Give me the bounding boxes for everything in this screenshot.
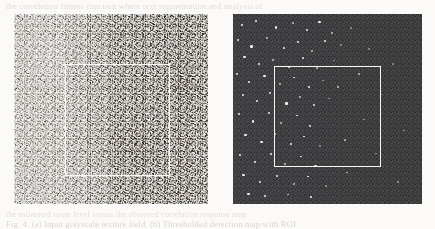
detection-speckle: [276, 175, 278, 177]
figure-container: the correlation fitness function where t…: [0, 0, 435, 229]
detection-speckle: [260, 141, 262, 143]
detection-speckle: [241, 24, 243, 26]
detection-speckle: [297, 41, 299, 43]
detection-speckle: [270, 153, 272, 155]
detection-speckle: [252, 120, 255, 122]
detection-speckle: [397, 181, 399, 183]
detection-speckle: [340, 44, 342, 46]
detection-speckle: [293, 183, 296, 185]
detection-speckle: [238, 113, 240, 115]
scan-bleedthrough-text-bottom-2: Fig. 4. (a) Input grayscale texture fiel…: [6, 219, 430, 229]
detection-map-panel: [233, 14, 422, 204]
detection-speckle: [255, 20, 257, 22]
detection-speckle: [264, 195, 266, 197]
detection-speckle: [268, 112, 270, 114]
detection-speckle: [266, 37, 268, 39]
detection-speckle: [368, 48, 370, 50]
detection-speckle: [331, 32, 333, 34]
detection-speckle: [287, 194, 289, 196]
detection-speckle: [269, 92, 271, 94]
detection-speckle: [254, 161, 257, 163]
detection-speckle: [239, 154, 241, 156]
detection-speckle: [263, 75, 266, 77]
detection-speckle: [403, 130, 405, 132]
region-of-interest-box-left: [65, 64, 170, 176]
detection-speckle: [306, 29, 308, 31]
detection-speckle: [243, 56, 246, 58]
detection-speckle: [250, 45, 253, 47]
detection-speckle: [237, 39, 239, 41]
detection-speckle: [259, 181, 261, 183]
detection-speckle: [311, 50, 313, 52]
detection-speckle: [307, 176, 309, 178]
detection-speckle: [283, 47, 285, 49]
detection-speckle: [292, 22, 294, 24]
detection-speckle: [272, 59, 274, 61]
detection-speckle: [318, 21, 321, 23]
detection-speckle: [310, 196, 312, 198]
detection-speckle: [247, 193, 249, 195]
detection-speckle: [392, 63, 394, 65]
detection-speckle: [244, 134, 247, 136]
detection-speckle: [333, 60, 335, 62]
detection-speckle: [324, 40, 327, 42]
detection-speckle: [350, 27, 352, 29]
detection-speckle: [242, 174, 245, 176]
detection-speckle: [256, 100, 258, 102]
input-texture-panel: [14, 14, 208, 204]
scan-bleedthrough-text-bottom-1: the estimated noise level versus the obs…: [6, 210, 430, 219]
detection-speckle: [346, 172, 348, 174]
detection-speckle: [248, 81, 250, 83]
detection-speckle: [258, 63, 260, 65]
detection-speckle: [325, 185, 327, 187]
region-of-interest-box-right: [274, 66, 381, 167]
detection-speckle: [236, 73, 238, 75]
scan-bleedthrough-text-top: the correlation fitness function where t…: [6, 1, 430, 11]
detection-speckle: [302, 57, 304, 59]
detection-speckle: [242, 94, 245, 96]
detection-speckle: [275, 26, 278, 28]
